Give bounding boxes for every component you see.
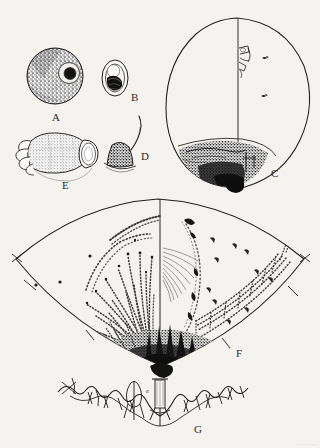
figure-g-loop-organ (124, 381, 144, 420)
figure-label-c: C (271, 168, 279, 179)
figure-label-g: G (194, 424, 202, 435)
figure-c-specks (261, 56, 269, 97)
plate-drawing (0, 0, 320, 448)
corner-mark: ——— (299, 441, 317, 446)
figure-label-e: E (62, 180, 69, 191)
figure-f-right-blotches (178, 219, 198, 340)
figure-label-d: D (141, 151, 149, 162)
figure-f-fan (163, 248, 200, 302)
figure-label-b: B (131, 92, 139, 103)
figure-b-drawing (102, 60, 128, 96)
figure-a-drawing (24, 48, 83, 104)
illustration-plate: A B C D E F G e ——— (0, 0, 320, 448)
figure-c-appendages (239, 46, 250, 78)
figure-f-marginal-setae (196, 238, 292, 336)
figure-d-drawing (104, 116, 141, 172)
figure-f-drawing (12, 199, 310, 381)
figure-g-drawing (58, 363, 248, 426)
figure-label-f: F (236, 348, 242, 359)
figure-f-marginal-band (194, 254, 290, 336)
figure-label-a: A (52, 112, 60, 123)
figure-g-central-tube (150, 379, 170, 426)
inline-label-e: e (146, 388, 149, 395)
figure-c-drawing (166, 18, 310, 193)
figure-f-left-heads (58, 239, 153, 304)
figure-e-drawing (16, 133, 98, 181)
figure-g-right-spines (184, 386, 244, 412)
figure-g-left-spines (62, 378, 134, 412)
